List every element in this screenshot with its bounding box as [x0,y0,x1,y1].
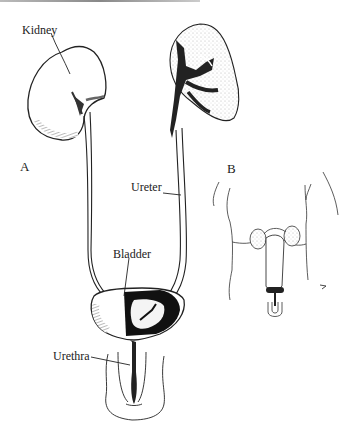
ureter-leader-line [163,193,181,195]
ureter-label: Ureter [131,181,162,193]
panel-b-label: B [227,162,236,175]
right-ureter [166,130,181,298]
left-kidney [28,47,106,140]
left-ureter [84,116,104,296]
urethra-leader-line [91,357,130,365]
urethra-label: Urethra [53,350,90,362]
kidney-label: Kidney [22,24,57,36]
bladder [91,288,184,340]
bladder-label: Bladder [113,248,151,260]
panel-b-organs [250,226,326,317]
panel-a-label: A [20,160,29,173]
right-kidney-section [170,24,239,138]
urinary-system-illustration [0,0,352,436]
urethra [106,340,165,420]
